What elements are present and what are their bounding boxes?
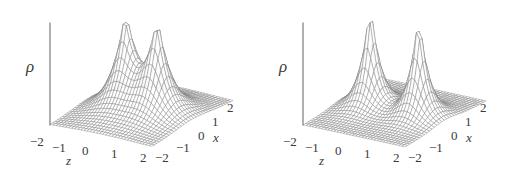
- figure-root: ρ −2 −1 0 1 2 z −2 −1 0 1 2 x ρ −2 −1 0 …: [0, 0, 505, 175]
- mesh-group-right: [303, 21, 486, 147]
- z-axis-name-right: z: [318, 153, 324, 168]
- z-tick-right--1: −1: [305, 140, 319, 155]
- x-tick-right--1: −1: [429, 140, 443, 155]
- x-tick-left-2: 2: [227, 100, 234, 115]
- x-tick-right--2: −2: [408, 150, 422, 165]
- z-tick-left-2: 2: [140, 150, 147, 165]
- x-tick-right-2: 2: [480, 100, 487, 115]
- x-tick-right-1: 1: [465, 114, 472, 129]
- surface-panel-left: ρ −2 −1 0 1 2 z −2 −1 0 1 2 x: [0, 0, 252, 175]
- z-tick-right--2: −2: [283, 134, 297, 149]
- x-tick-left--2: −2: [155, 150, 169, 165]
- x-tick-left-0: 0: [198, 128, 205, 143]
- x-tick-left--1: −1: [176, 140, 190, 155]
- z-axis-name-left: z: [65, 153, 71, 168]
- z-tick-left-1: 1: [111, 146, 118, 161]
- x-axis-name-right: x: [465, 130, 472, 145]
- x-axis-name-left: x: [212, 130, 219, 145]
- x-tick-left-1: 1: [212, 114, 219, 129]
- z-tick-left--2: −2: [30, 134, 44, 149]
- x-tick-right-0: 0: [451, 128, 458, 143]
- z-tick-right-1: 1: [364, 146, 371, 161]
- z-tick-left-0: 0: [82, 143, 89, 158]
- rho-axis-label-right: ρ: [278, 57, 287, 76]
- z-tick-left--1: −1: [52, 140, 66, 155]
- mesh-group-left: [50, 23, 233, 147]
- z-tick-right-2: 2: [393, 150, 400, 165]
- z-tick-right-0: 0: [335, 143, 342, 158]
- rho-axis-label-left: ρ: [25, 57, 34, 76]
- surface-plot-right: ρ −2 −1 0 1 2 z −2 −1 0 1 2 x: [253, 0, 505, 175]
- surface-plot-left: ρ −2 −1 0 1 2 z −2 −1 0 1 2 x: [0, 0, 252, 175]
- surface-panel-right: ρ −2 −1 0 1 2 z −2 −1 0 1 2 x: [253, 0, 505, 175]
